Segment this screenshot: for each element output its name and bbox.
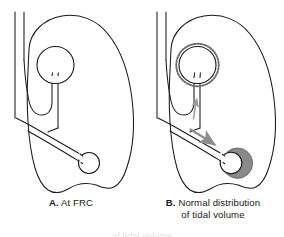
lung-ventilation-figure: A. At FRC B. Normal distribution of tida…: [0, 0, 284, 237]
panel-a-label: A.: [49, 197, 59, 208]
panel-b-caption-line2: of tidal volume: [142, 209, 284, 221]
upper-alveolus-neck-left-a: [52, 73, 53, 77]
upper-alveolus-neck-left-b: [194, 73, 195, 79]
panel-a-caption: A. At FRC: [0, 197, 142, 209]
bottom-bleed-text: of tidal volume: [0, 230, 284, 237]
panel-b-caption: B. Normal distribution of tidal volume: [142, 197, 284, 222]
panel-b-label: B.: [166, 197, 176, 208]
panel-b-caption-line1: Normal distribution: [178, 197, 260, 208]
panel-a-graphic: [15, 12, 133, 193]
panel-b-graphic: [157, 12, 275, 193]
panel-a-caption-text: At FRC: [61, 197, 93, 208]
